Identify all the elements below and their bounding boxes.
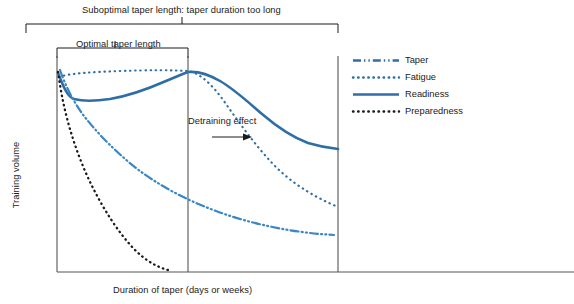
x-axis-label: Duration of taper (days or weeks) — [113, 285, 252, 295]
legend-label-readiness: Readiness — [405, 87, 449, 102]
legend-label-fatigue: Fatigue — [405, 70, 436, 85]
legend-label-preparedness: Preparedness — [405, 104, 463, 119]
suboptimal-bracket — [26, 17, 338, 33]
series-readiness-curve — [58, 72, 338, 149]
taper-chart-figure: Suboptimal taper length: taper duration … — [0, 0, 574, 304]
suboptimal-taper-label: Suboptimal taper length: taper duration … — [82, 5, 281, 15]
legend-label-taper: Taper — [405, 53, 428, 68]
detraining-effect-label: Detraining effect — [188, 115, 248, 127]
optimal-taper-label: Optimal taper length — [76, 39, 161, 49]
legend-item-readiness: Readiness — [353, 87, 533, 102]
legend-item-preparedness: Preparedness — [353, 104, 533, 119]
legend-item-taper: Taper — [353, 53, 533, 68]
y-axis-label: Training volume — [11, 135, 21, 215]
detraining-arrow — [212, 134, 252, 141]
series-taper-curve — [60, 70, 334, 235]
legend-item-fatigue: Fatigue — [353, 70, 533, 85]
